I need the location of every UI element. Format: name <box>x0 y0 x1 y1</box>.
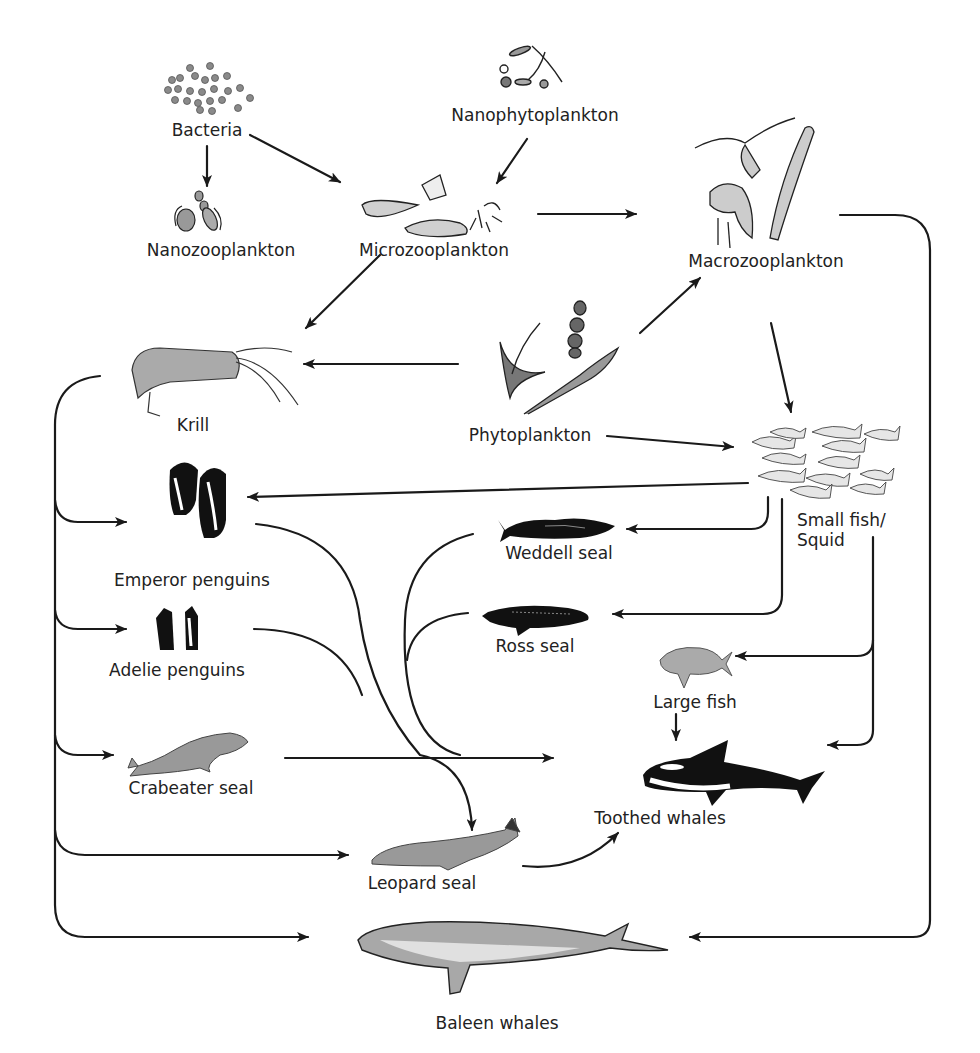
arrow-krill-adelie <box>55 610 126 629</box>
arrow-leopard-toothed <box>523 833 618 867</box>
line-ross-merge <box>407 613 468 660</box>
label-nanozooplankton: Nanozooplankton <box>147 240 295 260</box>
ross-seal-icon <box>482 606 589 636</box>
small-fish-icon <box>752 424 900 498</box>
line-adelie-merge <box>254 629 362 695</box>
label-crabeater-seal: Crabeater seal <box>129 778 254 798</box>
weddell-seal-icon <box>498 518 615 542</box>
label-bacteria: Bacteria <box>172 120 243 140</box>
arrow-phyto-smallfish <box>607 436 733 447</box>
phytoplankton-icon <box>500 301 618 414</box>
label-krill: Krill <box>177 415 209 435</box>
macrozooplankton-icon <box>695 118 814 248</box>
food-web-diagram: Bacteria Nanophytoplankton Nanozooplankt… <box>0 0 980 1053</box>
label-large-fish: Large fish <box>653 692 737 712</box>
nanozooplankton-icon <box>175 191 221 232</box>
arrow-krill-emperor <box>55 500 126 522</box>
microzooplankton-icon <box>362 175 502 237</box>
arrow-smallfish-ross <box>613 499 782 614</box>
adelie-penguins-icon <box>156 606 198 650</box>
label-leopard-seal: Leopard seal <box>368 873 477 893</box>
line-weddell-merge <box>405 534 473 755</box>
leopard-seal-icon <box>372 818 520 870</box>
label-small-fish-line2: Squid <box>797 530 886 550</box>
label-baleen-whales: Baleen whales <box>435 1013 558 1033</box>
arrow-krill-baleen <box>55 376 308 937</box>
label-macrozooplankton: Macrozooplankton <box>688 251 844 271</box>
arrow-smallfish-weddell <box>627 497 768 529</box>
label-microzooplankton: Microzooplankton <box>359 240 509 260</box>
crabeater-seal-icon <box>128 733 248 776</box>
arrow-smallfish-emperor <box>248 483 748 497</box>
arrow-smallfish-largefish <box>736 537 873 656</box>
arrow-krill-crabeater <box>55 735 113 755</box>
label-toothed-whales: Toothed whales <box>594 808 726 828</box>
label-ross-seal: Ross seal <box>495 636 574 656</box>
arrow-penguins-leopard <box>256 524 472 830</box>
arrow-krill-leopard <box>55 830 348 855</box>
arrow-macrozoo-baleen <box>690 215 930 937</box>
label-weddell-seal: Weddell seal <box>505 543 613 563</box>
toothed-whale-icon <box>643 740 825 806</box>
emperor-penguins-icon <box>170 463 227 539</box>
label-adelie-penguins: Adelie penguins <box>109 660 245 680</box>
krill-icon <box>132 348 298 416</box>
nanophytoplankton-icon <box>500 44 562 88</box>
baleen-whale-icon <box>358 922 668 994</box>
bacteria-icon <box>165 63 254 115</box>
large-fish-icon <box>660 648 732 689</box>
label-nanophytoplankton: Nanophytoplankton <box>451 105 618 125</box>
arrow-microzoo-krill <box>306 255 380 328</box>
arrow-phyto-macrozoo <box>640 278 700 333</box>
arrow-macrozoo-smallfish <box>771 323 791 412</box>
arrow-bacteria-microzooplankton <box>250 135 340 182</box>
label-small-fish-line1: Small fish/ <box>797 510 886 530</box>
label-emperor-penguins: Emperor penguins <box>114 570 270 590</box>
label-small-fish: Small fish/ Squid <box>797 510 886 550</box>
label-phytoplankton: Phytoplankton <box>469 425 592 445</box>
arrow-nanophyto-microzoo <box>497 139 527 183</box>
